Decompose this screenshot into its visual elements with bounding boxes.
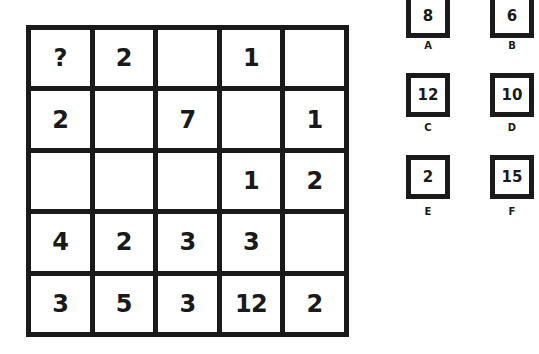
grid-cell-r2c2	[95, 91, 154, 147]
grid-cell-r4c1: 4	[31, 214, 90, 270]
grid-cell-r1c2: 2	[95, 30, 154, 86]
grid-cell-r2c3: 7	[158, 91, 217, 147]
grid-cell-r5c2: 5	[95, 276, 154, 332]
option-f-label: F	[490, 206, 534, 217]
grid-cell-r5c3: 3	[158, 276, 217, 332]
option-c-label: C	[406, 122, 450, 133]
grid-cell-r1c4: 1	[222, 30, 281, 86]
option-d-box[interactable]: 10	[490, 73, 534, 117]
grid-cell-r4c5	[285, 214, 344, 270]
option-b-box[interactable]: 6	[490, 0, 534, 38]
grid-cell-r2c1: 2	[31, 91, 90, 147]
grid-cell-r1c5	[285, 30, 344, 86]
grid-cell-r1c3	[158, 30, 217, 86]
grid-cell-r3c5: 2	[285, 153, 344, 209]
grid-cell-r3c1	[31, 153, 90, 209]
option-e-box[interactable]: 2	[406, 155, 450, 199]
grid-cell-r2c5: 1	[285, 91, 344, 147]
grid-cell-r1c1-question-mark: ?	[31, 30, 90, 86]
grid-cell-r3c2	[95, 153, 154, 209]
option-a-box[interactable]: 8	[406, 0, 450, 38]
grid-cell-r4c4: 3	[222, 214, 281, 270]
option-b-label: B	[490, 40, 534, 51]
grid-cell-r5c4: 12	[222, 276, 281, 332]
grid-cell-r5c1: 3	[31, 276, 90, 332]
option-a-label: A	[406, 40, 450, 51]
option-c-box[interactable]: 12	[406, 73, 450, 117]
grid-cell-r5c5: 2	[285, 276, 344, 332]
grid-cell-r3c3	[158, 153, 217, 209]
option-f-box[interactable]: 15	[490, 155, 534, 199]
grid-cell-r4c3: 3	[158, 214, 217, 270]
option-d-label: D	[490, 122, 534, 133]
grid-cell-r3c4: 1	[222, 153, 281, 209]
puzzle-grid: ? 2 1 2 7 1 1 2 4 2 3 3 3 5 3 12 2	[26, 25, 349, 337]
option-e-label: E	[406, 206, 450, 217]
grid-cell-r2c4	[222, 91, 281, 147]
grid-cell-r4c2: 2	[95, 214, 154, 270]
